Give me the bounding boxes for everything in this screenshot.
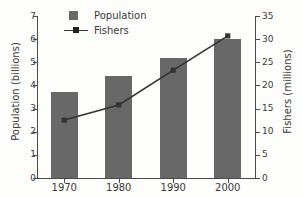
plot-area: 1970198019902000 bbox=[37, 16, 255, 178]
y-tick-label-right: 35 bbox=[262, 12, 284, 21]
chart-legend: Population Fishers bbox=[64, 9, 147, 39]
x-tick-label: 1980 bbox=[92, 183, 146, 192]
x-axis-line bbox=[37, 178, 256, 179]
y-tick-right bbox=[256, 109, 260, 110]
y-tick-right bbox=[256, 16, 260, 17]
fishers-line-marker-icon bbox=[64, 25, 88, 36]
y-tick-right bbox=[256, 178, 260, 179]
chart-container: Population (billions) Fishers (millions)… bbox=[0, 0, 302, 197]
legend-label-population: Population bbox=[94, 10, 147, 21]
y-tick-label-right: 5 bbox=[262, 150, 284, 159]
y-tick-label-left: 4 bbox=[16, 81, 36, 90]
y-tick-label-right: 20 bbox=[262, 81, 284, 90]
y-tick-right bbox=[256, 39, 260, 40]
y-tick-label-right: 10 bbox=[262, 127, 284, 136]
y-tick-label-left: 6 bbox=[16, 35, 36, 44]
x-tick-label: 1970 bbox=[37, 183, 91, 192]
y-tick-right bbox=[256, 62, 260, 63]
y-tick-label-right: 15 bbox=[262, 104, 284, 113]
legend-item-population: Population bbox=[64, 9, 147, 22]
y-tick-label-left: 1 bbox=[16, 150, 36, 159]
y-tick-label-left: 5 bbox=[16, 58, 36, 67]
y-tick-label-left: 3 bbox=[16, 104, 36, 113]
x-tick-label: 2000 bbox=[201, 183, 255, 192]
y-tick-right bbox=[256, 85, 260, 86]
population-swatch-icon bbox=[64, 10, 88, 21]
y-tick-right bbox=[256, 155, 260, 156]
x-tick-label: 1990 bbox=[146, 183, 200, 192]
legend-label-fishers: Fishers bbox=[94, 25, 129, 36]
y-tick-label-right: 0 bbox=[262, 174, 284, 183]
y-tick-label-right: 30 bbox=[262, 35, 284, 44]
y-tick-label-left: 0 bbox=[16, 174, 36, 183]
y-tick-label-right: 25 bbox=[262, 58, 284, 67]
line-series-fishers: 1970198019902000 bbox=[37, 16, 255, 178]
y-tick-label-left: 7 bbox=[16, 12, 36, 21]
y-tick-label-left: 2 bbox=[16, 127, 36, 136]
legend-item-fishers: Fishers bbox=[64, 24, 147, 37]
y-tick-right bbox=[256, 132, 260, 133]
